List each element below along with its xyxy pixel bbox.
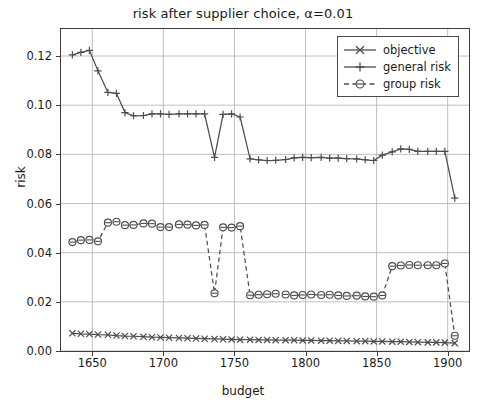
marker-plus — [94, 67, 101, 74]
y-tick-label: 0.06 — [6, 197, 52, 211]
chart-legend: objective general risk group risk — [337, 36, 459, 97]
x-tick-mark — [92, 352, 93, 356]
series-group-risk — [69, 218, 458, 339]
series-line — [72, 333, 454, 343]
marker-plus — [406, 146, 413, 153]
marker-plus — [104, 89, 111, 96]
marker-plus — [69, 51, 76, 58]
x-tick-mark — [306, 352, 307, 356]
marker-plus — [192, 110, 199, 117]
marker-plus — [335, 154, 342, 161]
marker-plus — [165, 111, 172, 118]
x-tick-mark — [163, 352, 164, 356]
legend-marker-x-icon — [343, 43, 377, 57]
marker-plus — [282, 156, 289, 163]
x-tick-label: 1750 — [212, 356, 256, 370]
legend-label-objective: objective — [377, 43, 436, 57]
marker-plus — [343, 155, 350, 162]
x-tick-label: 1700 — [141, 356, 185, 370]
legend-marker-circle-dash-icon — [343, 77, 377, 91]
marker-plus — [272, 157, 279, 164]
x-tick-label: 1800 — [284, 356, 328, 370]
marker-plus — [326, 154, 333, 161]
x-tick-label: 1850 — [355, 356, 399, 370]
chart-title: risk after supplier choice, α=0.01 — [0, 6, 486, 21]
legend-item-group-risk: group risk — [343, 75, 451, 92]
marker-plus — [379, 151, 386, 158]
chart-figure: risk after supplier choice, α=0.01 risk … — [0, 0, 486, 408]
marker-plus — [451, 195, 458, 202]
x-axis-label: budget — [0, 384, 486, 398]
marker-plus — [264, 157, 271, 164]
x-tick-mark — [377, 352, 378, 356]
marker-plus — [308, 154, 315, 161]
legend-item-general-risk: general risk — [343, 58, 451, 75]
marker-plus — [175, 110, 182, 117]
x-tick-mark — [448, 352, 449, 356]
y-tick-label: 0.10 — [6, 98, 52, 112]
marker-plus — [184, 110, 191, 117]
marker-plus — [246, 155, 253, 162]
marker-plus — [219, 111, 226, 118]
series-line — [72, 222, 454, 336]
y-tick-label: 0.12 — [6, 49, 52, 63]
marker-plus — [201, 110, 208, 117]
x-tick-label: 1900 — [426, 356, 470, 370]
x-tick-mark — [234, 352, 235, 356]
marker-plus — [130, 112, 137, 119]
marker-plus — [113, 90, 120, 97]
legend-label-group-risk: group risk — [377, 77, 441, 91]
legend-label-general-risk: general risk — [377, 60, 451, 74]
x-tick-label: 1650 — [70, 356, 114, 370]
y-tick-label: 0.02 — [6, 295, 52, 309]
marker-plus — [397, 145, 404, 152]
marker-plus — [237, 113, 244, 120]
marker-plus — [148, 110, 155, 117]
legend-marker-plus-icon — [343, 60, 377, 74]
marker-plus — [140, 112, 147, 119]
marker-plus — [77, 49, 84, 56]
marker-plus — [255, 156, 262, 163]
marker-plus — [121, 109, 128, 116]
y-tick-label: 0.08 — [6, 147, 52, 161]
y-tick-label: 0.04 — [6, 246, 52, 260]
marker-plus — [362, 156, 369, 163]
legend-item-objective: objective — [343, 41, 451, 58]
marker-plus — [353, 155, 360, 162]
y-tick-label: 0.00 — [6, 344, 52, 358]
series-objective — [69, 330, 458, 346]
marker-plus — [291, 154, 298, 161]
